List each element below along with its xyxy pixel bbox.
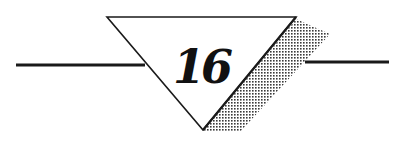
chapter-divider-graphic: 16 bbox=[0, 0, 406, 141]
chapter-number: 16 bbox=[173, 40, 232, 94]
